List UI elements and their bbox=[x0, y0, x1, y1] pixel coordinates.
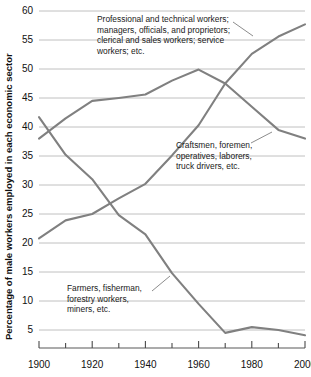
y-tick-label-60: 60 bbox=[22, 5, 34, 16]
x-tick-label-1980: 1980 bbox=[241, 359, 264, 370]
y-tick-label-30: 30 bbox=[22, 179, 34, 190]
y-axis-title: Percentage of male workers employed in e… bbox=[3, 53, 14, 340]
x-tick-label-1900: 1900 bbox=[28, 359, 51, 370]
x-tick-label-2000: 2000 bbox=[294, 359, 311, 370]
y-tick-label-15: 15 bbox=[22, 266, 34, 277]
y-tick-label-55: 55 bbox=[22, 34, 34, 45]
y-tick-label-45: 45 bbox=[22, 92, 34, 103]
y-tick-label-35: 35 bbox=[22, 150, 34, 161]
y-tick-label-40: 40 bbox=[22, 121, 34, 132]
x-tick-label-1940: 1940 bbox=[134, 359, 157, 370]
x-tick-label-1960: 1960 bbox=[187, 359, 210, 370]
y-tick-label-25: 25 bbox=[22, 208, 34, 219]
y-tick-label-10: 10 bbox=[22, 295, 34, 306]
x-tick-label-1920: 1920 bbox=[81, 359, 104, 370]
y-tick-label-5: 5 bbox=[27, 324, 33, 335]
chart-background bbox=[0, 0, 311, 377]
y-tick-label-20: 20 bbox=[22, 237, 34, 248]
y-tick-label-50: 50 bbox=[22, 63, 34, 74]
line-chart: 60555045403530252015105 1900192019401960… bbox=[0, 0, 311, 377]
chart-container: 60555045403530252015105 1900192019401960… bbox=[0, 0, 311, 377]
